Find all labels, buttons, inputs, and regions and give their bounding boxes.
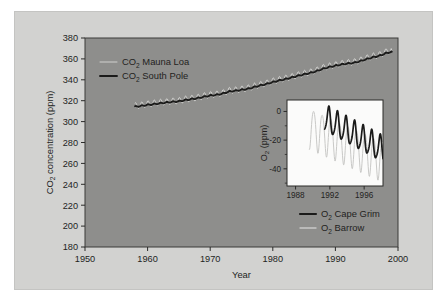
y-tick-label-380: 380 [63, 33, 78, 43]
y-tick-label-200: 200 [63, 221, 78, 231]
inset-y-tick-label-0: 0 [276, 107, 281, 116]
inset-legend-label-barrow: O2 Barrow [321, 222, 364, 234]
y-tick-label-360: 360 [63, 54, 78, 64]
y-tick-label-180: 180 [63, 242, 78, 252]
svg-text:CO2 concentration (ppm): CO2 concentration (ppm) [44, 91, 56, 195]
x-tick-label-1980: 1980 [263, 254, 283, 264]
y-tick-label-300: 300 [63, 117, 78, 127]
inset-x-tick-label-1988: 1988 [286, 191, 305, 200]
x-tick-label-1950: 1950 [75, 254, 95, 264]
inset-x-tick-label-1996: 1996 [355, 191, 374, 200]
y-tick-label-240: 240 [63, 180, 78, 190]
x-tick-label-2000: 2000 [388, 254, 408, 264]
chart-stage: 1802002202402602803003203403603801950196… [0, 0, 447, 305]
y-tick-label-220: 220 [63, 201, 78, 211]
inset-y-tick-label--20: -20 [269, 136, 281, 145]
y-tick-label-320: 320 [63, 96, 78, 106]
y-tick-label-260: 260 [63, 159, 78, 169]
y-tick-label-340: 340 [63, 75, 78, 85]
x-tick-label-1990: 1990 [325, 254, 345, 264]
x-tick-label-1960: 1960 [137, 254, 157, 264]
inset-x-tick-label-1992: 1992 [321, 191, 340, 200]
legend-label-south-pole: CO2 South Pole [122, 70, 188, 82]
inset-y-tick-label--40: -40 [269, 165, 281, 174]
x-axis-title: Year [232, 269, 251, 280]
y-axis-title: CO2 concentration (ppm) [44, 91, 56, 195]
y-tick-label-280: 280 [63, 138, 78, 148]
x-tick-label-1970: 1970 [200, 254, 220, 264]
svg-text:O2 (ppm): O2 (ppm) [259, 125, 270, 161]
legend-label-mauna-loa: CO2 Mauna Loa [122, 56, 190, 68]
co2-o2-figure: 1802002202402602803003203403603801950196… [0, 0, 447, 305]
inset-y-axis-title: O2 (ppm) [259, 125, 270, 161]
